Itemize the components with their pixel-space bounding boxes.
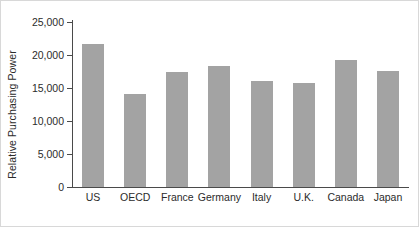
y-axis-tick-label: 10,000 [2,115,64,127]
bars-group [72,22,409,187]
y-axis-tick [67,88,73,89]
x-axis-tick-label: US [86,191,101,203]
y-axis-tick [67,55,73,56]
y-axis-tick [67,121,73,122]
x-axis-tick-label: U.K. [293,191,313,203]
y-axis-tick [67,154,73,155]
y-axis-tick-label: 5,000 [2,148,64,160]
x-axis-tick-label: OECD [120,191,150,203]
bar [335,60,357,187]
bar [82,44,104,187]
x-axis-tick-label: Germany [198,191,241,203]
y-axis-tick-label: 20,000 [2,49,64,61]
y-axis-tick-label: 0 [2,181,64,193]
x-axis-tick-label: Canada [327,191,364,203]
y-axis-tick-label: 15,000 [2,82,64,94]
bar [124,94,146,187]
bar [377,71,399,187]
y-axis-tick-labels: 05,00010,00015,00020,00025,000 [1,1,64,227]
x-axis-tick-label: France [161,191,194,203]
bar-chart-figure: Relative Purchasing Power 05,00010,00015… [0,0,419,227]
bar [251,81,273,187]
x-axis-tick-label: Japan [374,191,403,203]
x-axis-tick-labels: USOECDFranceGermanyItalyU.K.CanadaJapan [72,191,409,211]
y-axis-tick [67,187,73,188]
bar [208,66,230,187]
x-axis-line [67,187,409,188]
y-axis-tick [67,22,73,23]
y-axis-tick-label: 25,000 [2,16,64,28]
bar [293,83,315,187]
bar [166,72,188,187]
x-axis-tick-label: Italy [252,191,271,203]
